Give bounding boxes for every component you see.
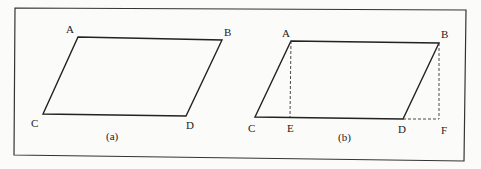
panel-a: A B C D (a) [31, 23, 231, 143]
vertex-label-c: C [248, 122, 255, 134]
parallelogram-figure: A B C D (a) A B C E D F (b) [0, 0, 481, 169]
parallelogram-abdc-b [255, 41, 439, 119]
vertex-label-c: C [31, 117, 38, 129]
vertex-label-a: A [282, 27, 290, 39]
panel-caption-a: (a) [106, 130, 119, 143]
vertex-label-b: B [441, 28, 448, 40]
panel-caption-b: (b) [338, 131, 351, 144]
figure-frame [14, 8, 466, 161]
vertex-label-e: E [287, 122, 294, 134]
vertex-label-a: A [66, 23, 74, 35]
altitude-ae-dashed [290, 41, 291, 117]
panel-b: A B C E D F (b) [248, 27, 448, 144]
parallelogram-abdc-a [43, 37, 222, 116]
vertex-label-f: F [441, 124, 447, 136]
vertex-label-b: B [224, 26, 231, 38]
vertex-label-d: D [186, 119, 194, 131]
vertex-label-d: D [398, 123, 406, 135]
